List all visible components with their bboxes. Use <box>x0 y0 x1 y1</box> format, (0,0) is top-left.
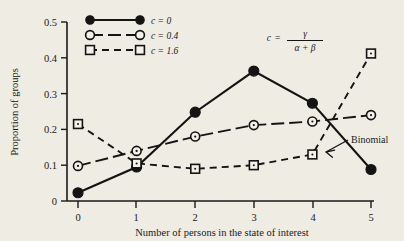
data-point-center-dot <box>136 162 138 164</box>
figure-container: 0.5 0.4 0.3 0.2 0.1 0 0 1 2 3 4 5 Number… <box>0 0 404 241</box>
x-tick-label: 0 <box>75 212 80 223</box>
line-chart: 0.5 0.4 0.3 0.2 0.1 0 0 1 2 3 4 5 Number… <box>0 0 404 241</box>
formula-numerator: γ <box>303 29 307 39</box>
y-tick-label: 0 <box>52 196 57 207</box>
legend-label: c = 0 <box>151 16 171 26</box>
data-point-center-dot <box>136 150 138 152</box>
legend-marker-filled-circle <box>86 16 94 24</box>
series-line <box>78 115 371 166</box>
data-point-center-dot <box>311 120 313 122</box>
legend-marker-filled-circle <box>136 16 144 24</box>
y-axis-title: Proportion of groups <box>9 68 20 156</box>
data-point-center-dot <box>77 123 79 125</box>
annotation-arrow-icon <box>326 140 348 152</box>
legend-item-c04[interactable]: c = 0.4 <box>86 31 179 41</box>
data-point-filled-circle <box>249 66 259 76</box>
y-tick-label: 0.5 <box>44 17 57 28</box>
x-tick-label: 5 <box>368 212 373 223</box>
legend-marker-open-circle <box>86 31 95 40</box>
formula-denominator: α + β <box>295 43 316 53</box>
data-point-center-dot <box>311 153 313 155</box>
series-2 <box>74 111 376 171</box>
legend: c = 0 c = 0.4 c = 1.6 <box>86 16 179 56</box>
data-point-filled-circle <box>190 107 200 117</box>
series-line <box>78 71 371 193</box>
axes <box>67 22 374 201</box>
data-point-filled-circle <box>73 188 83 198</box>
y-tick-label: 0.4 <box>44 53 58 64</box>
data-point-center-dot <box>77 165 79 167</box>
data-point-center-dot <box>370 114 372 116</box>
data-point-center-dot <box>370 53 372 55</box>
x-axis-ticks: 0 1 2 3 4 5 <box>75 201 373 223</box>
series-1 <box>73 66 376 198</box>
formula-annotation: c = γ α + β <box>267 29 323 53</box>
data-point-center-dot <box>194 135 196 137</box>
data-point-center-dot <box>253 164 255 166</box>
legend-item-c16[interactable]: c = 1.6 <box>86 46 179 56</box>
formula-equals: = <box>275 33 280 43</box>
legend-marker-open-square <box>86 46 95 55</box>
data-point-center-dot <box>194 168 196 170</box>
annotation-label: Binomial <box>351 134 388 145</box>
x-tick-label: 1 <box>133 212 138 223</box>
x-tick-label: 4 <box>310 212 316 223</box>
x-tick-label: 3 <box>251 212 256 223</box>
x-tick-label: 2 <box>192 212 197 223</box>
data-point-center-dot <box>253 124 255 126</box>
legend-marker-open-circle <box>136 31 145 40</box>
formula-lhs: c <box>267 33 272 43</box>
y-tick-label: 0.3 <box>44 89 57 100</box>
y-tick-label: 0.1 <box>44 160 57 171</box>
legend-label: c = 0.4 <box>151 31 179 41</box>
x-axis-title: Number of persons in the state of intere… <box>135 227 309 238</box>
legend-marker-open-square <box>136 46 145 55</box>
data-point-filled-circle <box>366 165 376 175</box>
y-axis-ticks: 0.5 0.4 0.3 0.2 0.1 0 <box>44 17 67 207</box>
data-point-filled-circle <box>307 98 317 108</box>
legend-item-c0[interactable]: c = 0 <box>86 16 172 26</box>
annotation-arrowhead-icon <box>326 150 335 157</box>
y-tick-label: 0.2 <box>44 124 57 135</box>
legend-label: c = 1.6 <box>151 46 179 56</box>
series-layer <box>73 49 376 198</box>
